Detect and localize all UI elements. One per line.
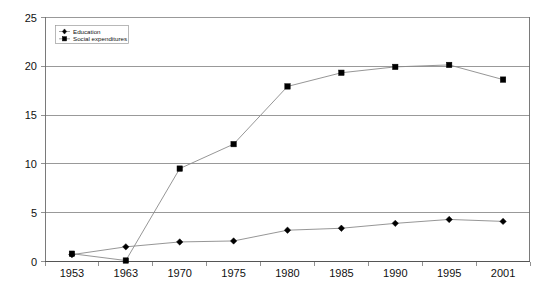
- y-axis-label-20: 20: [25, 60, 37, 72]
- x-axis-label-1995: 1995: [437, 267, 461, 279]
- data-point-square[interactable]: [177, 166, 182, 171]
- x-axis-label-1953: 1953: [60, 267, 84, 279]
- x-axis-label-1985: 1985: [329, 267, 353, 279]
- line-chart: 25 20 15 10 5 0 1953 1963 1970 1975 19: [0, 0, 550, 289]
- square-marker-icon: [62, 37, 66, 41]
- data-point-square[interactable]: [339, 70, 344, 75]
- data-point-square[interactable]: [123, 258, 128, 263]
- y-axis-ticks: [41, 18, 45, 262]
- data-point-square[interactable]: [446, 62, 451, 67]
- legend-label-social-expenditures: Social expenditures: [73, 35, 127, 42]
- legend-label-education: Education: [73, 28, 101, 35]
- chart-canvas: 25 20 15 10 5 0 1953 1963 1970 1975 19: [0, 0, 550, 289]
- data-point-square[interactable]: [69, 251, 74, 256]
- x-axis-ticks: [45, 262, 530, 266]
- y-axis-label-25: 25: [25, 12, 37, 24]
- y-axis-label-15: 15: [25, 109, 37, 121]
- y-axis-label-5: 5: [31, 207, 37, 219]
- x-axis-label-1970: 1970: [167, 267, 191, 279]
- y-axis-labels: 25 20 15 10 5 0: [25, 12, 37, 268]
- x-axis-label-1990: 1990: [383, 267, 407, 279]
- plot-background: [45, 17, 530, 261]
- y-axis-label-0: 0: [31, 256, 37, 268]
- x-axis-label-1963: 1963: [114, 267, 138, 279]
- x-axis-label-1975: 1975: [221, 267, 245, 279]
- chart-legend: Education Social expenditures: [56, 26, 129, 44]
- data-point-square[interactable]: [393, 64, 398, 69]
- data-point-square[interactable]: [231, 141, 236, 146]
- data-point-square[interactable]: [285, 84, 290, 89]
- x-axis-label-2001: 2001: [491, 267, 515, 279]
- x-axis-label-1980: 1980: [275, 267, 299, 279]
- x-axis-labels: 1953 1963 1970 1975 1980 1985 1990 1995 …: [60, 267, 516, 279]
- data-point-square[interactable]: [500, 77, 505, 82]
- y-axis-label-10: 10: [25, 158, 37, 170]
